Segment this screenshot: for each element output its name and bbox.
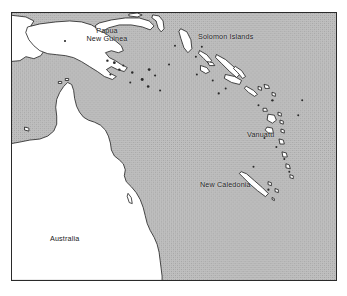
land-torres-strait-islet-2 — [66, 79, 69, 81]
islet-dot — [113, 61, 116, 64]
islet-dot — [196, 74, 198, 76]
islet-dot — [168, 64, 170, 66]
islet-dot — [118, 68, 120, 70]
land-vanuatu-erromango — [282, 152, 287, 157]
islet-dot — [212, 80, 214, 82]
islet-dot — [271, 99, 273, 101]
islet-dot — [148, 68, 151, 71]
land-ile-des-pins — [272, 198, 274, 201]
islet-dot — [122, 65, 124, 67]
land-vanuatu-islet-2 — [278, 112, 281, 116]
islet-dot — [283, 158, 285, 160]
islet-dot — [147, 85, 150, 88]
islet-dot — [257, 104, 259, 106]
islet-dot — [174, 45, 176, 47]
islet-dot — [195, 56, 197, 58]
land-loyalty-islands-1 — [268, 182, 271, 186]
islet-dot — [106, 59, 108, 61]
islet-dot — [141, 78, 144, 81]
land-vanuatu-islet-1 — [263, 108, 267, 111]
islet-dot — [297, 114, 299, 116]
islet-dot — [159, 89, 161, 91]
islet-dot — [301, 99, 303, 101]
land-torres-strait-islet-1 — [59, 81, 62, 83]
land-vanuatu-islet-3 — [280, 120, 283, 124]
land-torres-islands — [272, 92, 275, 96]
map-canvas — [12, 13, 336, 280]
land-vanuatu-efate — [279, 139, 284, 144]
islet-dot — [154, 74, 156, 76]
islet-dot — [109, 74, 111, 76]
land-banks-islands — [258, 86, 261, 90]
islet-dot — [218, 92, 220, 94]
islet-dot — [288, 171, 290, 173]
islet-dot — [263, 137, 265, 139]
islet-dot — [253, 166, 255, 168]
land-vanuatu-aneityum — [290, 175, 293, 179]
islet-dot — [129, 81, 131, 83]
islet-dot — [225, 87, 227, 89]
land-groote-eylandt — [25, 127, 29, 131]
map-frame: Papua New Guinea Solomon Islands Vanuatu… — [11, 12, 337, 281]
islet-dot — [267, 189, 269, 191]
islet-dot — [201, 46, 203, 48]
islet-dot — [275, 146, 277, 148]
islet-dot — [131, 71, 133, 73]
map-figure: Papua New Guinea Solomon Islands Vanuatu… — [0, 0, 347, 296]
land-vanuatu-islet-4 — [281, 129, 284, 133]
land-loyalty-islands-2 — [275, 189, 278, 193]
